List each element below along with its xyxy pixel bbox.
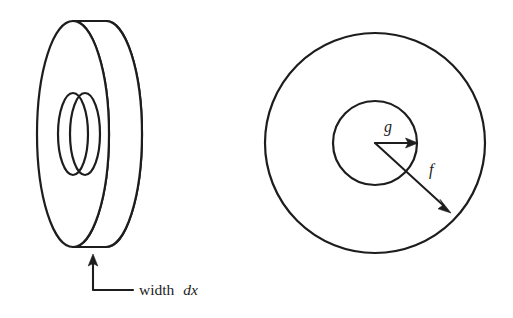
inner-radius-arrow-group <box>375 138 418 148</box>
washer-outer-front-ellipse <box>37 21 109 247</box>
outer-radius-arrow-shaft <box>375 143 444 206</box>
width-label-variable: dx <box>183 281 198 298</box>
inner-radius-label: g <box>384 118 392 136</box>
outer-radius-label: f <box>429 161 436 179</box>
left-washer-group <box>37 21 142 290</box>
right-annulus-group <box>265 33 485 253</box>
width-leader-group <box>88 254 133 290</box>
width-label-text: width <box>139 281 175 298</box>
outer-radius-arrow-group <box>375 143 451 213</box>
figure-canvas: width dx g f <box>0 0 513 318</box>
width-label-group: width dx <box>139 281 198 298</box>
figure-root: width dx g f <box>0 0 513 318</box>
width-leader-line <box>93 262 133 290</box>
